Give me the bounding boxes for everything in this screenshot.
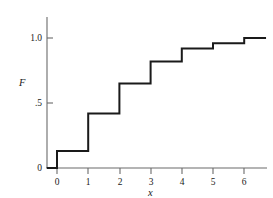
- cdf-step-line: [47, 38, 266, 168]
- x-axis-title: x: [148, 188, 153, 198]
- cdf-step-chart: 1.0 .5 0 0 1 2 3 4 5 6 F x: [0, 0, 273, 198]
- y-tick-label-1: 1.0: [20, 34, 42, 44]
- y-axis-title: F: [19, 78, 25, 89]
- x-tick-label-2: 2: [110, 178, 130, 188]
- x-tick-label-0: 0: [47, 178, 67, 188]
- y-tick-label-0p5: .5: [20, 99, 42, 109]
- y-axis-ticks: [47, 38, 53, 103]
- y-tick-label-0: 0: [20, 164, 42, 174]
- x-tick-label-5: 5: [203, 178, 223, 188]
- x-tick-label-4: 4: [172, 178, 192, 188]
- axes-group: [47, 17, 267, 168]
- x-axis-ticks: [57, 168, 244, 174]
- x-tick-label-1: 1: [78, 178, 98, 188]
- x-tick-label-6: 6: [234, 178, 254, 188]
